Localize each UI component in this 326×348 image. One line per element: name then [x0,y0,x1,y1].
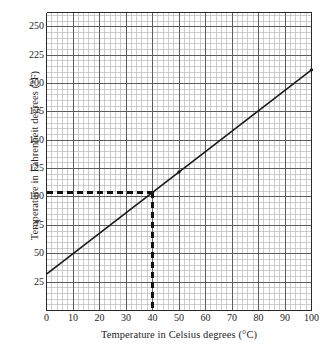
major-gridlines [47,13,312,311]
data-point-marker [151,191,154,194]
data-point-marker [310,68,313,71]
plot-area [0,0,326,348]
data-point-marker [177,170,180,173]
temperature-conversion-chart: Temperature in Fahrenheit degrees (°F) 2… [0,0,326,348]
